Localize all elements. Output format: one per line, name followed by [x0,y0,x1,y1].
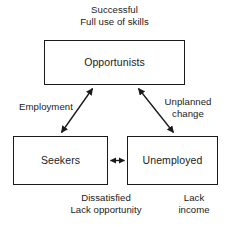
node-seekers-label: Seekers [41,154,80,166]
caption-unemployed-line2: income [163,204,225,216]
caption-seekers: Dissatisfied Lack opportunity [46,192,166,215]
edge-label-employment-line1: Employment [10,101,82,113]
caption-unemployed: Lack income [163,192,225,215]
node-unemployed[interactable]: Unemployed [127,136,218,185]
caption-opportunists-line2: Full use of skills [44,16,185,28]
edge-label-employment: Employment [10,101,82,113]
edge-label-unplanned-change-line1: Unplanned [150,96,226,108]
caption-seekers-line1: Dissatisfied [46,192,166,204]
edge-label-unplanned-change: Unplanned change [150,96,226,119]
diagram-canvas: Successful Full use of skills Opportunis… [0,0,237,227]
caption-seekers-line2: Lack opportunity [46,204,166,216]
edge-label-unplanned-change-line2: change [150,108,226,120]
node-unemployed-label: Unemployed [143,154,203,166]
caption-unemployed-line1: Lack [163,192,225,204]
node-opportunists-label: Opportunists [84,56,145,68]
caption-opportunists-line1: Successful [44,4,185,16]
node-seekers[interactable]: Seekers [13,136,108,185]
caption-opportunists: Successful Full use of skills [44,4,185,27]
node-opportunists[interactable]: Opportunists [44,40,185,85]
